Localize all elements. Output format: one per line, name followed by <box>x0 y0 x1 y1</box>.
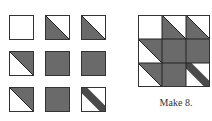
unit-solid-square <box>81 51 106 76</box>
caption: Make 8. <box>140 97 212 108</box>
unit-solid-square <box>45 51 70 76</box>
unit-half-square-triangle <box>9 51 34 76</box>
unit-half-square-triangle <box>45 15 70 40</box>
unit-half-square-triangle <box>9 87 34 112</box>
unit-plain-square <box>9 15 34 40</box>
unit-half-square-triangle <box>81 15 106 40</box>
unit-stem-square <box>81 87 106 112</box>
assembled-maple-leaf-block <box>138 15 210 87</box>
unit-solid-square <box>45 87 70 112</box>
